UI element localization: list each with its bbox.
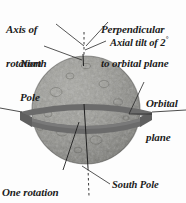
label-one-rotation-line1: One rotation [2, 187, 61, 198]
label-north-pole: North Pole [20, 36, 46, 126]
label-axial-tilt: Axial tilt of 2° [110, 36, 168, 48]
leader-north-pole [44, 46, 82, 60]
label-north-pole-line1: North [20, 58, 46, 69]
label-perpendicular-line2: to orbital plane [101, 58, 168, 69]
leader-axis-of-rotation [56, 24, 84, 46]
label-axis-of-rotation-line1: Axis of [6, 24, 41, 35]
label-orbital-plane-line1: Orbital [146, 98, 178, 109]
mercury-axial-tilt-diagram: Axis of rotation Perpendicular to orbita… [0, 0, 186, 203]
label-axial-tilt-text: Axial tilt of 2 [110, 37, 165, 48]
label-south-pole: South Pole [112, 180, 159, 191]
perpendicular-dashed-line-bottom [88, 168, 89, 196]
degree-symbol-icon: ° [165, 35, 168, 43]
label-one-rotation-period: One rotation takes 58 days and 16 hours [2, 165, 61, 203]
leader-south-pole [82, 166, 110, 184]
label-orbital-plane: Orbital plane [146, 76, 178, 166]
label-north-pole-line2: Pole [20, 92, 46, 103]
label-perpendicular-line1: Perpendicular [101, 24, 168, 35]
label-orbital-plane-line2: plane [146, 132, 178, 143]
